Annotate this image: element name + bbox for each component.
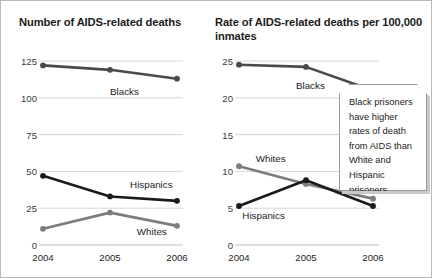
data-point (303, 64, 309, 70)
plot-area-left: 0255075100125200420052006BlacksHispanics… (1, 1, 201, 278)
chart-panel-number-of-deaths: Number of AIDS-related deaths 0255075100… (1, 1, 201, 278)
x-axis-tick-label: 2006 (362, 252, 383, 263)
data-point (40, 63, 46, 69)
data-point (40, 226, 46, 232)
series-label-whites: Whites (137, 226, 167, 237)
x-axis-tick-label: 2006 (166, 252, 187, 263)
series-label-blacks: Blacks (296, 80, 325, 91)
y-axis-tick-label: 0 (201, 240, 233, 251)
x-axis-tick-label: 2004 (228, 252, 249, 263)
y-axis-tick-label: 10 (201, 166, 233, 177)
data-point (370, 196, 376, 202)
data-point (174, 198, 180, 204)
y-axis-tick-label: 5 (201, 203, 233, 214)
data-point (174, 223, 180, 229)
series-label-hispanics: Hispanics (242, 210, 284, 221)
series-label-whites: Whites (256, 153, 286, 164)
series-label-blacks: Blacks (110, 86, 139, 97)
data-point (107, 210, 113, 216)
y-axis-tick-label: 25 (1, 203, 37, 214)
y-axis-tick-label: 15 (201, 129, 233, 140)
data-point (236, 203, 242, 209)
x-axis-tick-label: 2005 (295, 252, 316, 263)
y-axis-tick-label: 20 (201, 92, 233, 103)
data-point (40, 173, 46, 179)
data-point (236, 62, 242, 68)
y-axis-tick-label: 100 (1, 92, 37, 103)
y-axis-tick-label: 50 (1, 166, 37, 177)
y-axis-tick-label: 75 (1, 129, 37, 140)
series-label-hispanics: Hispanics (130, 179, 172, 190)
data-point (107, 67, 113, 73)
chart-figure: Number of AIDS-related deaths 0255075100… (0, 0, 432, 278)
data-point (303, 177, 309, 183)
callout-box: Black prisoners have higher rates of dea… (339, 84, 427, 191)
data-point (174, 76, 180, 82)
data-point (236, 163, 242, 169)
data-point (370, 203, 376, 209)
y-axis-tick-label: 25 (201, 56, 233, 67)
x-axis-tick-label: 2005 (99, 252, 120, 263)
y-axis-tick-label: 125 (1, 56, 37, 67)
x-axis-tick-label: 2004 (32, 252, 53, 263)
data-point (107, 194, 113, 200)
y-axis-tick-label: 0 (1, 240, 37, 251)
